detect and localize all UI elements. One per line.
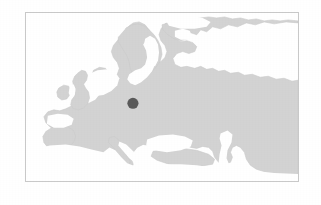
location-marker-icon bbox=[127, 98, 138, 109]
map-canvas bbox=[26, 13, 298, 181]
map-frame bbox=[25, 12, 299, 182]
locator-map-figure bbox=[0, 0, 321, 205]
